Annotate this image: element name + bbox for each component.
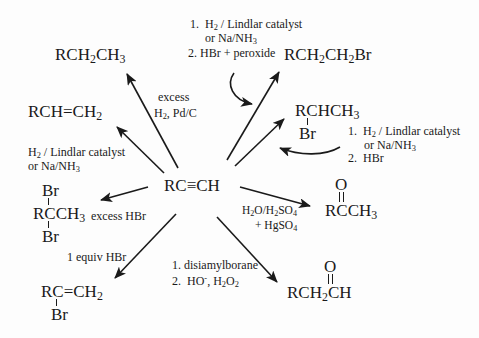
reagent-ho-h2o2: 2. HO-, H2O2 [172, 275, 239, 287]
product-markovnikov-bromide: RCHCH3 [295, 102, 360, 119]
reagent-top-step2: 2. HBr + peroxide [188, 47, 275, 59]
reagent-na-nh3: or Na/NH3 [28, 160, 80, 172]
product-methyl-ketone: RCCH3 [325, 202, 377, 219]
product-geminal-dibromide: RCCH3 [33, 205, 85, 222]
substituent-br-bottom: Br [42, 228, 59, 245]
substituent-br-top: Br [42, 182, 59, 199]
reagent-right-step1: 1. H2 / Lindlar catalyst [348, 125, 460, 137]
reactant-terminal-alkyne: RC≡CH [164, 177, 220, 194]
reagent-h2o-h2so4: H2O/H2SO4 [242, 205, 297, 217]
reagent-1-equiv-hbr: 1 equiv HBr [67, 251, 126, 263]
reagent-disiamylborane: 1. disiamylborane [172, 259, 258, 271]
product-alkane: RCH2CH3 [55, 46, 126, 63]
substituent-br: Br [51, 306, 68, 323]
product-aldehyde: RCH2CH [287, 284, 352, 301]
reagent-lindlar: H2 / Lindlar catalyst [28, 146, 125, 158]
arrow-to-methyl-ketone [240, 187, 310, 206]
curved-arrow-right [280, 147, 340, 154]
reagent-right-step2: 2. HBr [348, 152, 384, 164]
reagent-top-step1: 1. H2 / Lindlar catalyst [190, 18, 302, 30]
arrow-to-anti-markovnikov-bromide [227, 72, 279, 160]
product-vinyl-bromide: RC=CH2 [41, 283, 103, 300]
arrow-to-markovnikov-bromide [235, 119, 284, 166]
arrow-to-alkane [127, 74, 178, 168]
arrow-to-vinyl-bromide [115, 214, 176, 278]
reagent-top-step1-alt: or Na/NH3 [205, 32, 257, 44]
substituent-br: Br [299, 125, 316, 142]
reagent-h2-pdc: H2, Pd/C [154, 107, 197, 119]
product-alkene: RCH=CH2 [28, 103, 102, 120]
reagent-hgso4: + HgSO4 [255, 220, 297, 232]
reagent-excess-hbr: excess HBr [91, 210, 146, 222]
curved-arrow-top [231, 73, 252, 104]
carbonyl-oxygen: O [324, 258, 336, 275]
triple-bond: ≡ [187, 176, 197, 195]
carbonyl-oxygen: O [335, 176, 347, 193]
arrow-to-geminal-dibromide [101, 187, 148, 200]
reagent-right-step1-alt: or Na/NH3 [364, 139, 416, 151]
product-anti-markovnikov-bromide: RCH2CH2Br [284, 46, 372, 63]
reagent-excess-h2: excess [158, 91, 189, 103]
